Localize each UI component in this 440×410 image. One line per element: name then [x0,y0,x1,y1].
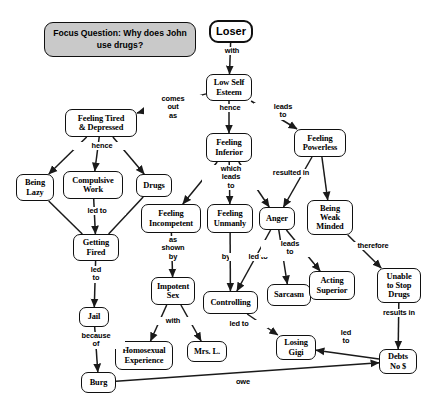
edge-label-unable-to-debts: results in [370,309,428,317]
edge-weak-to-unable [348,235,381,268]
edge-label-powerless-to-anger: resulted in [262,169,320,177]
node-label-incompetent: FeelingIncompetent [144,209,198,227]
edge-label-tired-to-lazy: hence [73,142,131,150]
edge-label-debts-to-losing: led to [317,329,375,346]
edge-label-burg-to-debts: owe [214,378,272,386]
node-label-mrsl: Mrs. L. [190,347,224,356]
node-label-superior: ActingSuperior [312,276,352,294]
node-label-unmanly: FeelingUnmanly [210,209,250,227]
node-loser[interactable]: Loser [209,20,253,43]
node-label-losing: LosingGigi [279,338,313,356]
node-debts[interactable]: DebtsNo $ [379,349,417,374]
node-label-debts: DebtsNo $ [382,352,414,370]
edge-label-controlling-to-losing: led to [210,320,268,328]
node-unable[interactable]: Unableto StopDrugs [377,268,421,303]
node-controlling[interactable]: Controlling [203,291,258,314]
edge-lazy-to-fired [49,201,83,234]
concept-map-canvas: Focus Question: Why does John use drugs?… [0,0,440,410]
node-powerless[interactable]: FeelingPowerless [294,129,346,157]
node-label-loser: Loser [213,26,249,38]
node-label-anger: Anger [262,214,292,223]
node-drugs[interactable]: Drugs [136,174,172,197]
node-unmanly[interactable]: FeelingUnmanly [207,204,253,233]
edge-label-incompetent-to-impotent: as shown by [144,236,202,261]
edge-label-compulsive-to-fired: led to [68,207,126,215]
edge-label-loser-to-low_self: with [203,47,261,55]
node-burg[interactable]: Burg [81,372,116,393]
node-compulsive[interactable]: CompulsiveWork [63,171,123,199]
node-label-low_self: Low SelfEsteem [209,78,249,96]
edge-label-low_self-to-tired: comes out as [144,95,202,120]
node-low_self[interactable]: Low SelfEsteem [206,74,252,101]
node-incompetent[interactable]: FeelingIncompetent [141,204,201,233]
edge-debts-to-losing [316,350,379,359]
edge-label-inferior-to-incompetent: which leads to [202,165,260,190]
node-focus[interactable]: Focus Question: Why does John use drugs? [44,22,196,57]
edge-powerless-to-weak [322,157,328,200]
node-anger[interactable]: Anger [259,207,295,230]
node-label-inferior: FeelingInferior [209,138,249,156]
node-label-drugs: Drugs [139,181,169,190]
node-label-powerless: FeelingPowerless [297,134,343,152]
edge-label-low_self-to-powerless: leads to [254,103,312,120]
node-sarcasm[interactable]: Sarcasm [267,284,311,306]
node-label-burg: Burg [84,378,113,387]
node-lazy[interactable]: BeingLazy [16,174,54,201]
node-label-compulsive: CompulsiveWork [66,176,120,194]
edge-drugs-to-fired [109,197,144,234]
node-inferior[interactable]: FeelingInferior [206,133,252,162]
node-label-controlling: Controlling [206,298,255,307]
edge-label-fired-to-jail: led to [67,266,125,283]
edge-compulsive-to-fired [94,199,96,234]
node-label-fired: GettingFired [76,238,116,256]
node-losing[interactable]: LosingGigi [276,335,316,360]
node-label-focus: Focus Question: Why does John use drugs? [47,28,193,50]
edge-label-weak-to-unable: therefore [344,242,402,250]
edge-label-impotent-to-homosexual: with [144,317,202,325]
node-label-sarcasm: Sarcasm [270,290,308,299]
node-mrsl[interactable]: Mrs. L. [187,341,227,362]
node-impotent[interactable]: ImpotentSex [151,277,195,305]
edge-label-low_self-to-inferior: hence [201,104,259,112]
node-tired[interactable]: Feeling Tired& Depressed [65,109,137,137]
node-label-homosexual: HomosexualExperience [118,346,170,364]
node-superior[interactable]: ActingSuperior [309,271,355,300]
node-fired[interactable]: GettingFired [73,234,119,261]
edge-powerless-to-anger [284,157,313,207]
node-jail[interactable]: Jail [79,307,109,327]
node-label-weak: BeingWeakMinded [310,204,350,231]
node-label-tired: Feeling Tired& Depressed [68,114,134,132]
edge-label-jail-to-burg: because of [67,332,125,349]
node-label-lazy: BeingLazy [19,178,51,196]
edge-label-anger-to-sarcasm: leads to [261,240,319,257]
node-label-impotent: ImpotentSex [154,282,192,300]
node-weak[interactable]: BeingWeakMinded [307,200,353,235]
node-label-unable: Unableto StopDrugs [380,272,418,299]
node-label-jail: Jail [82,312,106,321]
